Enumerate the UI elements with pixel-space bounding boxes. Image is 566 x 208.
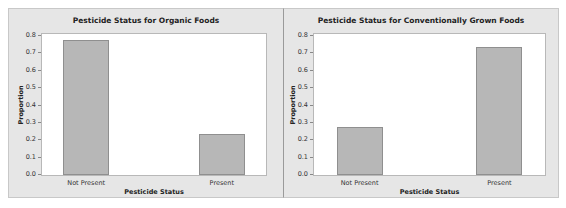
y-tick-mark [38, 52, 41, 53]
bar-not-present [63, 40, 109, 175]
chart-panel-conventional: Pesticide Status for Conventionally Grow… [283, 8, 559, 198]
y-tick-label: 0.1 [16, 153, 36, 161]
bar-present [476, 47, 522, 175]
y-tick-mark [38, 139, 41, 140]
y-tick-mark [310, 87, 313, 88]
y-tick-label: 0.0 [288, 170, 308, 178]
y-tick-mark [310, 35, 313, 36]
x-category-label: Not Present [51, 179, 121, 187]
y-tick-label: 0.2 [16, 135, 36, 143]
y-tick-label: 0.7 [288, 48, 308, 56]
x-axis-label: Pesticide Status [41, 188, 267, 196]
y-tick-mark [310, 157, 313, 158]
y-tick-label: 0.2 [288, 135, 308, 143]
y-tick-mark [38, 174, 41, 175]
y-tick-label: 0.8 [16, 31, 36, 39]
y-axis-label: Proportion [289, 80, 297, 130]
y-tick-label: 0.6 [16, 66, 36, 74]
y-tick-mark [310, 70, 313, 71]
y-tick-mark [38, 157, 41, 158]
y-tick-mark [310, 174, 313, 175]
x-category-label: Not Present [325, 179, 395, 187]
y-tick-mark [310, 139, 313, 140]
y-tick-mark [38, 105, 41, 106]
x-category-label: Present [464, 179, 534, 187]
y-tick-mark [38, 35, 41, 36]
chart-panel-organic: Pesticide Status for Organic Foods0.00.1… [8, 8, 284, 198]
x-category-label: Present [187, 179, 257, 187]
y-tick-label: 0.0 [16, 170, 36, 178]
y-tick-label: 0.7 [16, 48, 36, 56]
y-tick-label: 0.1 [288, 153, 308, 161]
bar-present [199, 134, 245, 175]
chart-title: Pesticide Status for Organic Foods [9, 16, 283, 25]
chart-title: Pesticide Status for Conventionally Grow… [284, 16, 558, 25]
y-tick-mark [38, 70, 41, 71]
y-tick-mark [38, 87, 41, 88]
y-tick-mark [310, 52, 313, 53]
y-tick-mark [38, 122, 41, 123]
y-tick-label: 0.6 [288, 66, 308, 74]
x-axis-label: Pesticide Status [313, 188, 546, 196]
y-axis-label: Proportion [17, 80, 25, 130]
y-tick-label: 0.8 [288, 31, 308, 39]
y-tick-mark [310, 122, 313, 123]
y-tick-mark [310, 105, 313, 106]
bar-not-present [337, 127, 383, 175]
